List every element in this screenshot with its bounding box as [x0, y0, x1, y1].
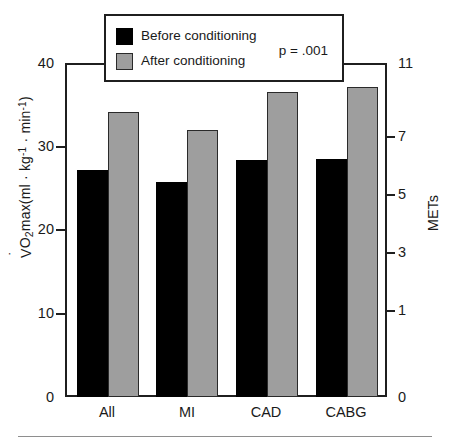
black-swatch-icon — [116, 28, 133, 45]
mets-ticklabel-1: 1 — [398, 303, 406, 318]
bar-group-cad — [226, 64, 305, 397]
bar-after-all — [108, 112, 139, 397]
bar-before-all — [77, 170, 108, 397]
x-ticklabel-cabg: CABG — [306, 404, 386, 420]
bar-group-all — [67, 64, 146, 397]
legend-label-after: After conditioning — [141, 54, 245, 68]
bar-before-cad — [236, 160, 267, 397]
mets-ticklabel-5: 5 — [398, 187, 406, 202]
bar-after-cabg — [347, 87, 378, 397]
bar-after-mi — [187, 130, 218, 397]
legend-box: Before conditioning After conditioning p… — [104, 14, 344, 82]
mets-tick-3 — [385, 252, 395, 254]
bar-before-cabg — [316, 159, 347, 397]
y-tick-10 — [56, 313, 67, 315]
gray-swatch-icon — [116, 53, 133, 70]
x-ticklabel-all: All — [67, 404, 147, 420]
y-tick-20 — [56, 229, 67, 231]
legend-label-before: Before conditioning — [141, 29, 257, 43]
mets-ticklabel-11: 11 — [398, 56, 413, 71]
bar-group-mi — [146, 64, 225, 397]
mets-tick-5 — [385, 194, 395, 196]
y-tick-30 — [56, 146, 67, 148]
mets-axis-title: METs — [425, 168, 441, 258]
y-ticklabel-0: 0 — [20, 390, 54, 405]
bars-layer — [67, 64, 385, 397]
x-ticklabel-mi: MI — [147, 404, 227, 420]
y-ticklabel-10: 10 — [20, 306, 54, 321]
mets-ticklabel-0: 0 — [398, 390, 406, 405]
x-ticklabel-cad: CAD — [226, 404, 306, 420]
figure-canvas: 40 30 20 10 0 11 7 5 3 1 0 VO2max(ml · k… — [0, 0, 450, 447]
y-ticklabel-40: 40 — [20, 56, 54, 71]
bar-before-mi — [156, 182, 187, 397]
footer-divider — [18, 436, 432, 437]
mets-ticklabel-7: 7 — [398, 129, 406, 144]
bar-after-cad — [267, 92, 298, 398]
legend-item-after: After conditioning — [116, 52, 245, 70]
mets-tick-1 — [385, 310, 395, 312]
bar-group-cabg — [306, 64, 385, 397]
mets-tick-7 — [385, 136, 395, 138]
mets-ticklabel-3: 3 — [398, 245, 406, 260]
v-dot-accent: V — [17, 248, 33, 258]
pvalue-annotation: p = .001 — [279, 43, 328, 58]
y-axis-title: VO2max(ml · kg-1 · min-1) — [17, 77, 35, 277]
legend-item-before: Before conditioning — [116, 27, 257, 45]
